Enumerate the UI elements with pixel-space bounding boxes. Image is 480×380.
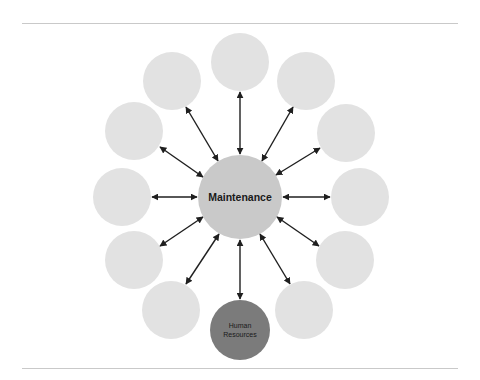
human-resources-node	[210, 300, 270, 360]
arrow-right-lower	[277, 217, 319, 246]
arrow-top-left	[186, 107, 218, 161]
outer-node-left-upper	[105, 102, 163, 160]
arrow-left-upper	[160, 147, 203, 177]
human-resources-label-line1: Human	[229, 322, 252, 329]
arrow-bottom-left	[186, 234, 219, 284]
arrow-top-right	[262, 107, 293, 161]
outer-node-left-lower	[105, 231, 163, 289]
human-resources-label-line2: Resources	[223, 331, 257, 338]
outer-node-left	[93, 168, 151, 226]
outer-node-top	[211, 33, 269, 91]
maintenance-label: Maintenance	[208, 191, 272, 203]
outer-node-top-left	[143, 52, 201, 110]
outer-node-right-upper	[317, 104, 375, 162]
outer-node-bottom-right	[275, 281, 333, 339]
outer-node-top-right	[277, 52, 335, 110]
arrow-right-upper	[276, 148, 320, 175]
outer-node-right-lower	[316, 231, 374, 289]
arrow-left-lower	[160, 217, 203, 246]
hub-spoke-diagram: Human Resources Maintenance	[0, 0, 480, 380]
arrow-bottom-right	[260, 234, 290, 284]
outer-node-bottom-left	[142, 281, 200, 339]
outer-node-right	[331, 168, 389, 226]
